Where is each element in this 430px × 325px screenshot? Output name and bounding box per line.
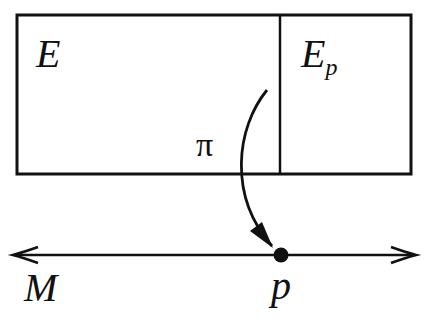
fiber-label: Ep bbox=[301, 34, 337, 79]
total-space-label: E bbox=[36, 34, 60, 74]
total-space-box bbox=[17, 15, 411, 174]
base-space-label: M bbox=[24, 268, 57, 308]
projection-arrow bbox=[241, 90, 272, 246]
projection-label: π bbox=[196, 128, 213, 162]
diagram-canvas bbox=[0, 0, 430, 325]
point-label: p bbox=[271, 266, 291, 306]
fiber-label-subscript: p bbox=[325, 54, 337, 80]
fiber-label-base: E bbox=[301, 31, 325, 76]
point-p-dot bbox=[274, 248, 289, 263]
projection-arrowhead-icon bbox=[250, 222, 273, 248]
